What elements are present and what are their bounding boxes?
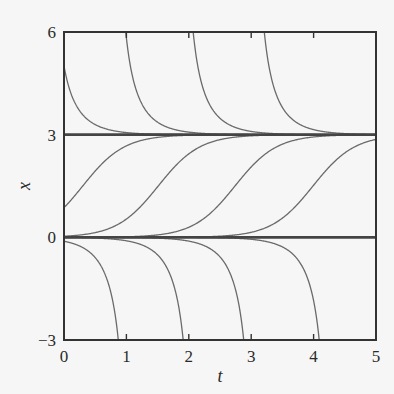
y-tick-label: 3 [48,126,57,145]
x-tick-label: 4 [309,347,318,366]
y-axis-label: x [14,182,34,191]
x-tick-label: 3 [247,347,256,366]
phase-line-chart: 012345 −3036 t x [0,0,394,394]
x-tick-label: 1 [122,347,131,366]
y-tick-label: 0 [48,228,57,247]
x-tick-label: 2 [185,347,194,366]
x-tick-label: 5 [372,347,381,366]
y-tick-label: −3 [38,331,56,350]
y-tick-label: 6 [48,23,57,42]
x-tick-label: 0 [60,347,69,366]
